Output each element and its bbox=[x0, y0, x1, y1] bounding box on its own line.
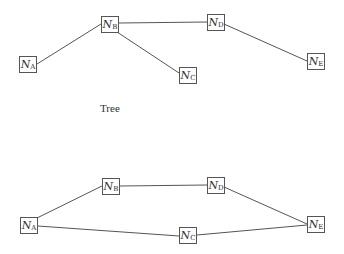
node-label: N bbox=[181, 230, 191, 241]
node-subscript: C bbox=[190, 235, 195, 242]
node-label: N bbox=[103, 19, 113, 30]
edge-graph-a-b bbox=[37, 186, 102, 218]
node-label: N bbox=[22, 220, 32, 231]
graph-node-e: NE bbox=[307, 216, 325, 233]
graph-node-d: ND bbox=[207, 177, 225, 194]
tree-node-d: ND bbox=[207, 14, 225, 31]
node-subscript: D bbox=[218, 185, 224, 192]
graph-node-c: NC bbox=[179, 227, 197, 244]
tree-node-a: NA bbox=[19, 56, 37, 73]
node-label: N bbox=[309, 56, 319, 67]
node-label: N bbox=[208, 180, 218, 191]
node-subscript: B bbox=[112, 24, 117, 31]
edge-tree-b-d bbox=[119, 22, 207, 23]
edge-tree-a-b bbox=[37, 24, 101, 64]
node-subscript: E bbox=[318, 224, 323, 231]
node-subscript: D bbox=[218, 22, 224, 29]
tree-node-e: NE bbox=[307, 53, 325, 70]
node-label: N bbox=[21, 59, 31, 70]
node-subscript: A bbox=[30, 64, 35, 71]
edge-graph-c-e bbox=[197, 225, 307, 235]
edge-graph-a-c bbox=[38, 226, 179, 236]
node-subscript: A bbox=[31, 225, 36, 232]
node-label: N bbox=[181, 70, 191, 81]
edge-tree-b-c bbox=[117, 32, 179, 73]
graph-node-b: NB bbox=[102, 178, 120, 195]
node-label: N bbox=[104, 181, 114, 192]
node-label: N bbox=[208, 17, 218, 28]
node-subscript: E bbox=[318, 61, 323, 68]
node-subscript: C bbox=[190, 75, 195, 82]
edge-tree-d-e bbox=[224, 24, 307, 61]
edge-graph-d-e bbox=[224, 187, 307, 224]
node-subscript: B bbox=[113, 186, 118, 193]
graph-node-a: NA bbox=[20, 217, 38, 234]
edge-graph-b-d bbox=[120, 185, 207, 186]
node-label: N bbox=[309, 219, 319, 230]
tree-node-c: NC bbox=[179, 67, 197, 84]
tree-caption: Tree bbox=[100, 102, 120, 114]
edges-layer bbox=[0, 0, 344, 254]
tree-node-b: NB bbox=[101, 16, 119, 33]
